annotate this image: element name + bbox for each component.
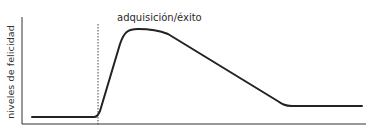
y-axis-label: niveles de felicidad	[5, 25, 16, 119]
happiness-curve	[32, 29, 362, 117]
happiness-chart: niveles de felicidad adquisición/éxito	[0, 0, 370, 133]
event-annotation: adquisición/éxito	[117, 12, 202, 23]
